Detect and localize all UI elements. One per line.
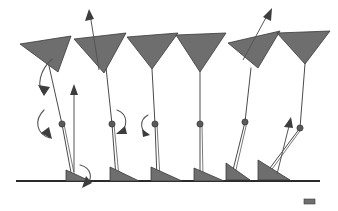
pose-4-shin-2 <box>202 124 203 178</box>
diagram-canvas <box>0 0 338 211</box>
shank-velocity-vector-pose-6-shaft <box>277 122 290 174</box>
ground-reaction-vector-pose-2-head <box>70 84 78 95</box>
scale-marker <box>304 199 315 204</box>
gait-diagram <box>0 0 338 211</box>
pose-4-thigh-segment <box>176 33 226 72</box>
pose-5-shin-2 <box>235 122 247 174</box>
vector-arrows-group <box>70 8 293 174</box>
pose-6 <box>258 31 330 180</box>
pose-6-thigh-segment <box>277 31 330 64</box>
ankle-rotation-arrow-pose-1 <box>80 165 92 188</box>
pose-2-thigh-segment <box>74 33 126 73</box>
rotation-arrows-group <box>38 59 150 188</box>
pose-5-knee-joint <box>242 119 248 125</box>
pose-3-knee-joint <box>152 121 158 127</box>
pose-3-femur <box>152 69 155 124</box>
pose-3-thigh-segment <box>127 33 178 69</box>
pose-5-femur <box>245 68 251 122</box>
hip-velocity-vector-pose-2-head <box>85 9 94 21</box>
hip-rotation-arrow-pose-1-head <box>38 85 50 96</box>
pose-6-knee-joint <box>297 125 303 131</box>
pose-6-femur <box>300 64 305 128</box>
poses-group <box>20 31 330 181</box>
knee-rotation-arrow-pose-3 <box>142 115 150 137</box>
knee-rotation-arrow-pose-1 <box>38 110 52 139</box>
pose-4 <box>176 33 226 181</box>
pose-5-shin <box>232 122 245 174</box>
shank-velocity-vector-pose-6-head <box>284 117 293 128</box>
knee-rotation-arrow-pose-2-head <box>116 126 127 134</box>
pose-2-knee-joint <box>109 121 115 127</box>
pose-1-shin <box>62 124 72 178</box>
shank-velocity-vector-pose-6 <box>277 117 293 174</box>
knee-rotation-arrow-pose-2 <box>116 110 127 134</box>
pose-1-knee-joint <box>59 121 65 127</box>
pose-4-knee-joint <box>197 121 203 127</box>
pose-5-foot-segment <box>226 163 250 180</box>
knee-rotation-arrow-pose-3-head <box>142 129 150 137</box>
pose-3-foot-segment <box>151 167 182 181</box>
pose-1 <box>20 36 90 181</box>
pose-5-thigh-segment <box>228 31 280 68</box>
hip-velocity-vector-pose-5-head <box>263 8 272 21</box>
pose-4-foot-segment <box>194 168 224 181</box>
pose-5 <box>226 31 280 180</box>
scale-marker-group <box>304 199 315 204</box>
pose-2-foot-segment <box>110 167 139 181</box>
pose-2 <box>74 33 139 181</box>
pose-3 <box>127 33 182 181</box>
